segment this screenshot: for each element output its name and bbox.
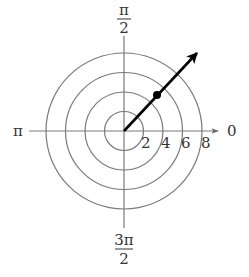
radial-label-6: 6 <box>181 134 191 152</box>
ray-theta-pi-over-4 <box>124 53 197 131</box>
radial-label-4: 4 <box>161 134 171 152</box>
angle-label-pi-over-2-numerator: π <box>119 1 129 19</box>
radial-label-2: 2 <box>141 134 151 152</box>
polar-graph-svg: 2 4 6 8 0 π π 2 3π 2 <box>0 0 249 277</box>
radial-label-8: 8 <box>201 134 211 152</box>
angle-label-pi-over-2: π 2 <box>117 1 131 37</box>
angle-label-0: 0 <box>227 122 237 140</box>
angle-label-3pi-over-2-denominator: 2 <box>119 250 129 268</box>
plotted-point <box>153 91 161 99</box>
polar-graph: 2 4 6 8 0 π π 2 3π 2 <box>0 0 249 277</box>
angle-label-pi: π <box>13 122 23 140</box>
angle-label-3pi-over-2-numerator: 3π <box>114 231 134 249</box>
angle-label-pi-over-2-denominator: 2 <box>119 19 129 37</box>
angle-label-3pi-over-2: 3π 2 <box>114 231 134 268</box>
